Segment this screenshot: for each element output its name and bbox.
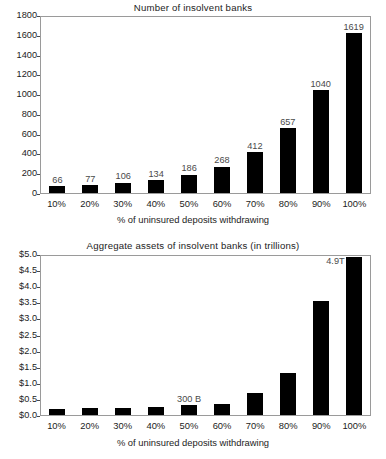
bar-value-label: 77 [85,175,95,184]
bar-slot [41,256,74,415]
bar-slot: 268 [206,17,239,193]
bar [247,393,263,415]
y-axis-tick-label: 400 [22,150,37,159]
y-axis-tick-label: $1.0 [19,379,37,388]
x-axis-tick-label: 40% [139,420,172,431]
bar [181,405,197,415]
bar-slot: 412 [238,17,271,193]
x-axis-tick-label: 10% [40,198,73,209]
bar-slot: 4.9T [337,256,370,415]
x-axis-tick-label: 50% [172,420,205,431]
plot-area: 300 B4.9T [40,255,371,416]
bar-slot: 300 B [173,256,206,415]
x-axis-ticks: 10%20%30%40%50%60%70%80%90%100% [40,198,371,209]
x-axis-tick-label: 20% [73,198,106,209]
bar [148,407,164,415]
bar [49,186,65,193]
y-axis-tick-mark [37,194,40,195]
bar [313,90,329,193]
bar-slot: 657 [271,17,304,193]
bar [280,128,296,193]
y-axis-tick-label: $3.0 [19,315,37,324]
bar [313,301,329,415]
y-axis-tick-label: $0.5 [19,395,37,404]
y-axis-tick-label: 200 [22,170,37,179]
x-axis-tick-label: 100% [338,198,371,209]
bar-slot [107,256,140,415]
bar-value-label: 1040 [310,80,330,89]
bar-value-label: 186 [181,164,196,173]
y-axis-tick-label: 600 [22,130,37,139]
bar [181,175,197,193]
bar [115,183,131,193]
chart-title: Number of insolvent banks [0,2,386,13]
x-axis-tick-label: 10% [40,420,73,431]
bar-value-label: 412 [247,142,262,151]
x-axis-tick-label: 60% [205,198,238,209]
bar-value-label: 1619 [343,23,363,32]
y-axis-tick-label: $5.0 [19,250,37,259]
x-axis-tick-label: 30% [106,420,139,431]
x-axis-title: % of uninsured deposits withdrawing [0,214,386,225]
x-axis-tick-label: 80% [272,420,305,431]
y-axis-tick-label: 1000 [17,91,37,100]
y-axis-tick-label: 1800 [17,11,37,20]
bar-series: 667710613418626841265710401619 [41,17,370,193]
y-axis-tick-label: $3.5 [19,299,37,308]
bar-value-label: 106 [116,172,131,181]
bar-slot [206,256,239,415]
y-axis-tick-label: $4.5 [19,266,37,275]
y-axis-tick-label: $2.0 [19,347,37,356]
x-axis-tick-label: 50% [172,198,205,209]
bar-slot: 66 [41,17,74,193]
bar-series: 300 B4.9T [41,256,370,415]
bar [214,404,230,415]
y-axis-tick-mark [37,416,40,417]
y-axis-tick-label: 1600 [17,31,37,40]
x-axis-tick-label: 60% [205,420,238,431]
y-axis-tick-label: $0.0 [19,411,37,420]
y-axis-tick-label: $4.0 [19,283,37,292]
bar-slot [271,256,304,415]
bar-value-label: 300 B [177,395,201,404]
x-axis-tick-label: 100% [338,420,371,431]
bar-slot: 1619 [337,17,370,193]
bar-value-label: 268 [214,156,229,165]
bar-slot: 106 [107,17,140,193]
bar: 4.9T [346,257,362,415]
bar-value-label: 134 [149,170,164,179]
bar-slot [74,256,107,415]
bar [280,373,296,415]
x-axis-tick-label: 30% [106,198,139,209]
bar [346,33,362,193]
bar-value-label: 657 [280,118,295,127]
bar-slot: 77 [74,17,107,193]
bar-slot: 134 [140,17,173,193]
bar-value-label: 4.9T [326,257,344,266]
y-axis-tick-label: $1.5 [19,363,37,372]
bar [214,167,230,194]
bar [82,408,98,415]
plot-area: 667710613418626841265710401619 [40,16,371,194]
y-axis-tick-label: 800 [22,110,37,119]
x-axis-tick-label: 70% [239,420,272,431]
y-axis-tick-label: 1400 [17,51,37,60]
chart-aggregate-assets-of-insolvent-banks: Aggregate assets of insolvent banks (in … [0,230,386,459]
bar [82,185,98,193]
y-axis-tick-label: 1200 [17,71,37,80]
bar-slot [140,256,173,415]
bar [247,152,263,193]
bar-slot: 1040 [304,17,337,193]
x-axis-ticks: 10%20%30%40%50%60%70%80%90%100% [40,420,371,431]
bar-slot [238,256,271,415]
bar [49,409,65,415]
y-axis-tick-label: $2.5 [19,331,37,340]
x-axis-tick-label: 70% [239,198,272,209]
x-axis-tick-label: 20% [73,420,106,431]
bar [115,408,131,415]
chart-number-of-insolvent-banks: Number of insolvent banks 02004006008001… [0,0,386,230]
x-axis-tick-label: 40% [139,198,172,209]
bar-value-label: 66 [52,176,62,185]
bar [148,180,164,193]
x-axis-tick-label: 90% [305,198,338,209]
